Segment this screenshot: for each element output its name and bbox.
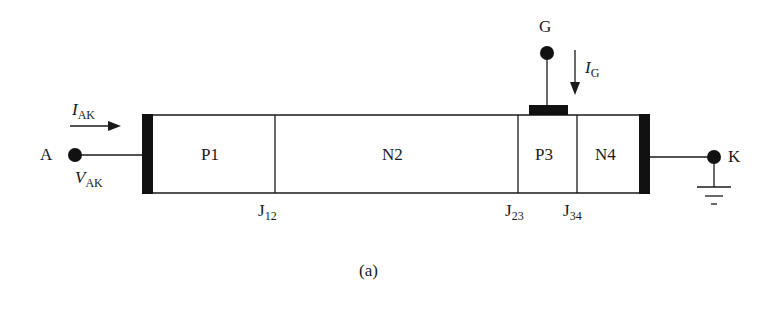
- ground-icon: [697, 157, 731, 204]
- gate-terminal-dot: [540, 46, 554, 60]
- junction-j34-base: J: [563, 201, 570, 220]
- anode-current-symbol: I: [72, 100, 78, 119]
- gate-current-symbol: I: [585, 58, 591, 77]
- region-n4: N4: [595, 146, 616, 163]
- junction-j12-subscript: 12: [265, 209, 277, 223]
- voltage-symbol: V: [75, 168, 85, 187]
- gate-current-label: IG: [585, 59, 599, 76]
- gate-label: G: [539, 18, 551, 35]
- cathode-label: K: [728, 148, 740, 165]
- anode-terminal-dot: [68, 148, 82, 162]
- junction-label-j12: J12: [258, 202, 277, 219]
- gate-current-arrow-icon: [570, 50, 580, 95]
- voltage-subscript: AK: [85, 176, 102, 190]
- junction-j23-subscript: 23: [512, 209, 524, 223]
- junction-label-j34: J34: [563, 202, 582, 219]
- anode-voltage-label: VAK: [75, 169, 103, 186]
- junction-j23-base: J: [505, 201, 512, 220]
- anode-label: A: [40, 146, 52, 163]
- junction-j34-subscript: 34: [570, 209, 582, 223]
- junction-j12-base: J: [258, 201, 265, 220]
- anode-current-arrow-icon: [70, 121, 121, 131]
- cathode-contact: [639, 114, 650, 194]
- anode-current-label: IAK: [72, 101, 95, 118]
- figure-caption: (a): [359, 262, 378, 279]
- junction-label-j23: J23: [505, 202, 524, 219]
- gate-contact: [529, 105, 568, 115]
- anode-current-subscript: AK: [78, 108, 95, 122]
- anode-contact: [142, 114, 153, 194]
- region-p3: P3: [535, 146, 553, 163]
- gate-current-subscript: G: [591, 66, 600, 80]
- region-p1: P1: [201, 146, 219, 163]
- region-n2: N2: [382, 146, 403, 163]
